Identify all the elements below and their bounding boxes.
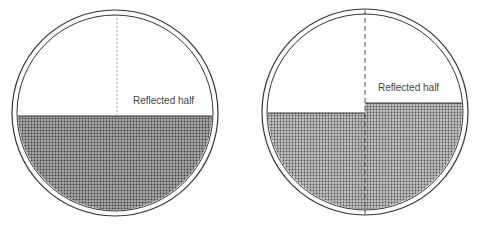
- right-fill-left: [265, 113, 365, 223]
- left-fill: [15, 116, 215, 216]
- right-diagram: Reflected half: [262, 9, 468, 223]
- diagram-canvas: Reflected half Reflected half: [0, 0, 479, 227]
- left-label: Reflected half: [133, 95, 194, 106]
- left-diagram: Reflected half: [12, 10, 218, 216]
- right-fill-right: [365, 103, 465, 223]
- right-label: Reflected half: [378, 82, 439, 93]
